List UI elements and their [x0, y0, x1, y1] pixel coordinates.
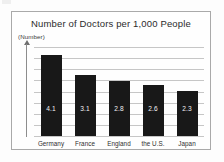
plot-area: 4.13.12.82.62.3 [34, 47, 204, 136]
bar[interactable]: 2.6 [143, 85, 164, 136]
bar-value-label: 2.3 [182, 106, 191, 113]
category-label: the U.S. [136, 140, 170, 147]
bar[interactable]: 3.1 [75, 75, 96, 136]
y-axis-line [26, 44, 27, 137]
chart-screenshot: Number of Doctors per 1,000 People (Numb… [0, 0, 224, 162]
bar-slot: 3.1 [68, 47, 102, 136]
scan-artifact [2, 0, 11, 4]
bar[interactable]: 4.1 [41, 55, 62, 136]
category-axis-labels: GermanyFranceEnglandthe U.S.Japan [34, 140, 204, 147]
bar[interactable]: 2.3 [177, 91, 198, 136]
bar-value-label: 2.8 [114, 106, 123, 113]
bar-slot: 2.8 [102, 47, 136, 136]
bar-value-label: 2.6 [148, 106, 157, 113]
chart-title: Number of Doctors per 1,000 People [12, 18, 210, 29]
bar-value-label: 4.1 [46, 106, 55, 113]
category-label: France [68, 140, 102, 147]
bar-slot: 4.1 [34, 47, 68, 136]
category-label: Japan [170, 140, 204, 147]
category-label: England [102, 140, 136, 147]
bar-slot: 2.6 [136, 47, 170, 136]
gridline [34, 136, 204, 137]
bar[interactable]: 2.8 [109, 81, 130, 136]
bar-slot: 2.3 [170, 47, 204, 136]
y-axis-unit-label: (Number) [18, 33, 45, 40]
figure-frame: Number of Doctors per 1,000 People (Numb… [11, 11, 211, 150]
category-label: Germany [34, 140, 68, 147]
bar-series: 4.13.12.82.62.3 [34, 47, 204, 136]
bar-value-label: 3.1 [80, 106, 89, 113]
